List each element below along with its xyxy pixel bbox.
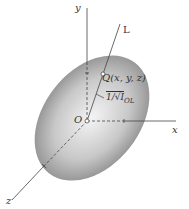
ellipsoid [11,33,173,202]
line-L-label: L [123,24,130,35]
origin-point [85,119,89,123]
z-axis-label: z [6,195,11,206]
x-axis-label: x [172,124,178,135]
origin-label: O [74,114,82,125]
ellipsoid-diagram [0,0,189,209]
point-Q-label: Q(x, y, z) [102,72,146,83]
y-axis-label: y [75,2,81,13]
distance-label: 1/√IOL [106,92,134,105]
z-axis [12,166,44,200]
